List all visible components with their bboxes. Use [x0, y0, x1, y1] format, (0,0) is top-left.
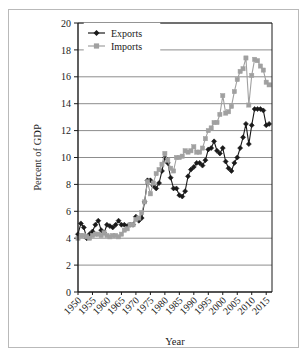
data-point-imports: [215, 120, 219, 124]
data-point-imports: [142, 200, 146, 204]
data-point-imports: [140, 211, 144, 215]
data-point-imports: [255, 59, 259, 63]
data-point-exports: [186, 174, 191, 179]
data-point-exports: [241, 135, 246, 140]
data-point-imports: [241, 67, 245, 71]
y-axis-title: Percent of GDP: [32, 124, 43, 191]
data-point-imports: [189, 149, 193, 153]
y-tick-label: 0: [66, 287, 71, 298]
y-tick-label: 16: [61, 71, 71, 82]
data-point-imports: [148, 192, 152, 196]
data-point-imports: [218, 112, 222, 116]
data-point-imports: [232, 89, 236, 93]
data-point-imports: [192, 145, 196, 149]
data-point-imports: [131, 223, 135, 227]
y-tick-label: 14: [61, 98, 71, 109]
data-point-imports: [180, 154, 184, 158]
data-point-imports: [267, 83, 271, 87]
data-point-imports: [137, 216, 141, 220]
y-tick-label: 2: [66, 260, 71, 271]
data-point-imports: [221, 94, 225, 98]
data-point-imports: [163, 151, 167, 155]
data-point-imports: [157, 168, 161, 172]
exports-imports-line-chart: 0246810121416182019501955196019651970197…: [0, 0, 308, 358]
data-point-exports: [246, 142, 251, 147]
data-point-imports: [203, 137, 207, 141]
data-point-imports: [226, 110, 230, 114]
data-point-imports: [258, 64, 262, 68]
data-point-imports: [154, 172, 158, 176]
data-point-imports: [244, 56, 248, 60]
data-point-imports: [247, 103, 251, 107]
data-point-imports: [119, 232, 123, 236]
legend-label-exports: Exports: [111, 28, 142, 39]
data-point-exports: [168, 175, 173, 180]
data-point-imports: [261, 68, 265, 72]
series-line-exports: [78, 109, 269, 238]
data-point-exports: [203, 158, 208, 163]
data-point-imports: [171, 169, 175, 173]
y-tick-label: 4: [66, 233, 71, 244]
data-point-imports: [229, 104, 233, 108]
data-point-imports: [151, 181, 155, 185]
data-point-imports: [250, 73, 254, 77]
legend-label-imports: Imports: [111, 41, 142, 52]
data-point-imports: [200, 146, 204, 150]
data-point-exports: [223, 159, 228, 164]
x-tick-label: 2015: [250, 295, 272, 317]
data-point-exports: [220, 146, 225, 151]
data-point-exports: [212, 139, 217, 144]
data-point-exports: [183, 189, 188, 194]
chart-figure: 0246810121416182019501955196019651970197…: [0, 0, 308, 358]
data-point-exports: [249, 123, 254, 128]
y-tick-label: 12: [61, 125, 71, 136]
y-tick-label: 18: [61, 45, 71, 56]
y-tick-label: 20: [61, 18, 71, 29]
y-tick-label: 8: [66, 179, 71, 190]
data-point-imports: [160, 162, 164, 166]
data-point-imports: [198, 150, 202, 154]
data-point-exports: [238, 146, 243, 151]
data-point-exports: [235, 155, 240, 160]
legend-marker-imports: [94, 43, 99, 48]
data-point-imports: [166, 158, 170, 162]
data-point-imports: [235, 77, 239, 81]
y-tick-label: 10: [61, 152, 71, 163]
data-point-imports: [145, 180, 149, 184]
x-axis-title: Year: [165, 336, 185, 347]
data-point-imports: [125, 227, 129, 231]
data-point-imports: [209, 126, 213, 130]
data-point-exports: [243, 121, 248, 126]
y-tick-label: 6: [66, 206, 71, 217]
data-point-exports: [232, 160, 237, 165]
